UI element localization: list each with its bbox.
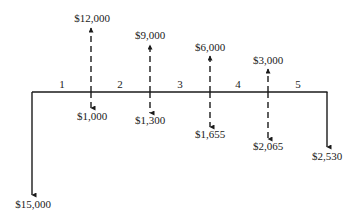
label-inflow-4: $3,000 (253, 54, 284, 66)
label-inflow-3: $6,000 (195, 41, 226, 53)
period-label-2: 2 (117, 78, 123, 90)
period-label-3: 3 (177, 78, 183, 90)
label-outflow-3: $1,655 (195, 128, 226, 140)
label-outflow-4: $2,065 (253, 140, 284, 152)
label-inflow-2: $9,000 (135, 29, 166, 41)
label-initial-outflow: $15,000 (15, 198, 51, 210)
cash-flow-diagram: 1 2 3 4 5 $15,000 $12,000 $9,000 $6,000 … (0, 0, 361, 222)
period-label-1: 1 (59, 78, 65, 90)
label-outflow-1: $1,000 (77, 110, 108, 122)
label-inflow-1: $12,000 (74, 12, 110, 24)
period-label-4: 4 (235, 78, 241, 90)
period-label-5: 5 (295, 78, 301, 90)
label-outflow-5: $2,530 (312, 150, 343, 162)
label-outflow-2: $1,300 (135, 114, 166, 126)
